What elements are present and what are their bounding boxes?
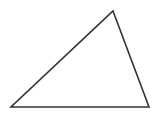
triangle-shape: [11, 11, 149, 107]
triangle-figure: [0, 0, 167, 121]
diagram-canvas: [0, 0, 167, 121]
